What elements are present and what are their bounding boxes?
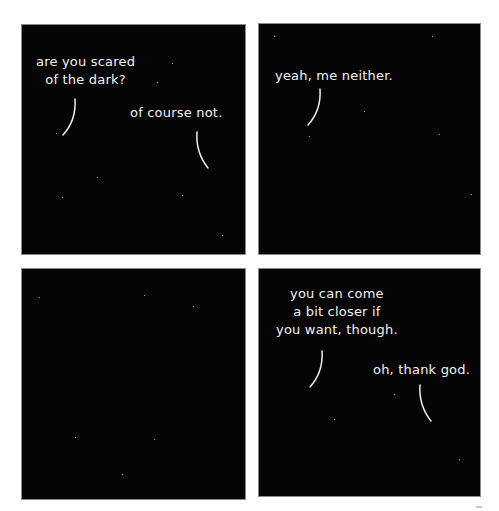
star-field bbox=[22, 269, 245, 499]
speech-text-right: of course not. bbox=[130, 104, 222, 122]
speech-tail-right bbox=[194, 130, 214, 172]
comic-panel-3 bbox=[21, 268, 246, 500]
speech-tail-left bbox=[303, 87, 323, 129]
comic-panel-2: yeah, me neither. bbox=[258, 23, 481, 255]
speech-tail-right bbox=[417, 383, 437, 425]
comic-panel-1: are you scared of the dark? of course no… bbox=[21, 24, 246, 255]
star-field bbox=[259, 24, 480, 254]
artist-mark bbox=[476, 506, 482, 508]
speech-text-right: oh, thank god. bbox=[373, 361, 470, 379]
speech-text-left: are you scared of the dark? bbox=[36, 53, 135, 89]
speech-text-left: you can come a bit closer if you want, t… bbox=[276, 285, 398, 339]
speech-tail-left bbox=[305, 349, 325, 391]
speech-tail-left bbox=[58, 97, 78, 139]
comic-panel-4: you can come a bit closer if you want, t… bbox=[258, 268, 481, 497]
speech-text-left: yeah, me neither. bbox=[275, 67, 393, 85]
